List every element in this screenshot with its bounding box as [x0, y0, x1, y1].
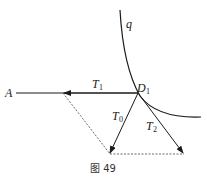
figure-caption: 图 49	[90, 163, 116, 174]
arrow-T0	[110, 93, 138, 153]
label-D1: D	[136, 81, 146, 95]
curve-q	[120, 10, 201, 117]
force-diagram: A q D 1 T 1 T 0 T 2 图 49	[0, 0, 207, 177]
label-T1-sub: 1	[99, 83, 103, 92]
label-D1-sub: 1	[146, 87, 150, 96]
label-T2-sub: 2	[153, 125, 157, 134]
dashed-left	[63, 93, 110, 154]
label-q: q	[126, 17, 132, 31]
label-A: A	[4, 86, 13, 100]
label-T0-sub: 0	[119, 115, 123, 124]
arrow-T2	[138, 93, 183, 153]
